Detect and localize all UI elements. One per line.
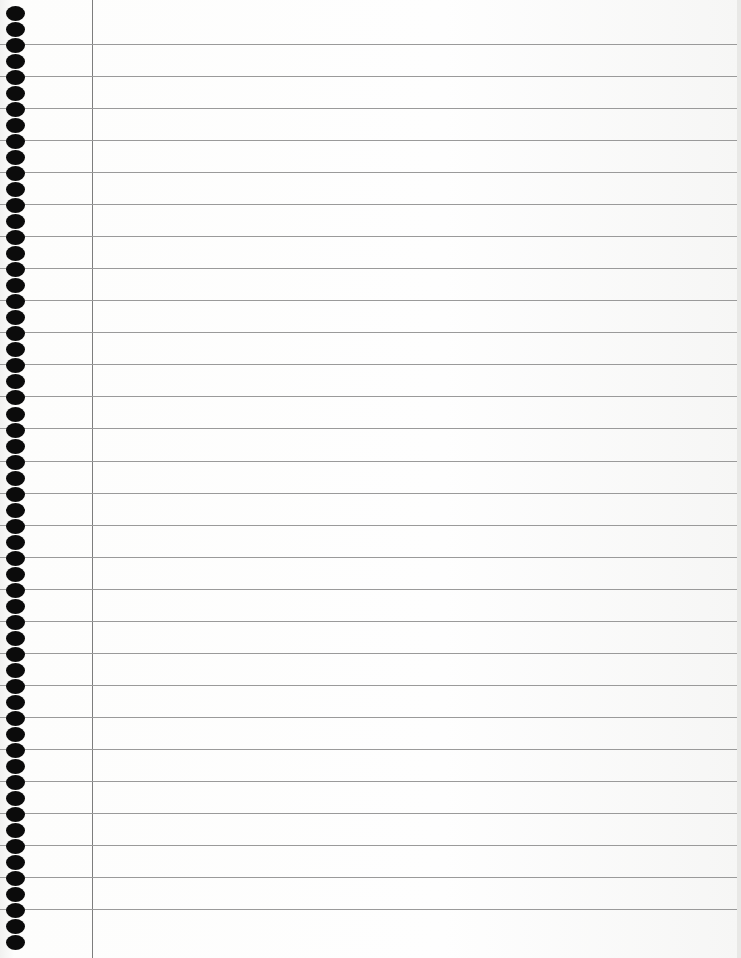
- ruled-line: [0, 589, 741, 590]
- binder-hole-icon: [6, 615, 25, 630]
- ruled-line: [0, 493, 741, 494]
- binder-hole-icon: [6, 390, 25, 405]
- ruled-line: [0, 268, 741, 269]
- binder-hole-icon: [6, 903, 25, 918]
- binder-hole-icon: [6, 807, 25, 822]
- ruled-line: [0, 172, 741, 173]
- binder-hole-icon: [6, 150, 25, 165]
- notebook-paper: [0, 0, 741, 958]
- binder-hole-icon: [6, 487, 25, 502]
- ruled-line: [0, 364, 741, 365]
- binder-hole-icon: [6, 535, 25, 550]
- ruled-line: [0, 877, 741, 878]
- ruled-line: [0, 781, 741, 782]
- binder-hole-icon: [6, 695, 25, 710]
- binder-hole-icon: [6, 246, 25, 261]
- ruled-line: [0, 461, 741, 462]
- binder-hole-icon: [6, 935, 25, 950]
- binder-hole-icon: [6, 70, 25, 85]
- binder-hole-icon: [6, 743, 25, 758]
- ruled-line: [0, 108, 741, 109]
- binder-hole-icon: [6, 679, 25, 694]
- binder-hole-icon: [6, 471, 25, 486]
- binder-hole-icon: [6, 503, 25, 518]
- binder-hole-icon: [6, 134, 25, 149]
- binder-hole-icon: [6, 711, 25, 726]
- ruled-line: [0, 557, 741, 558]
- ruled-line: [0, 236, 741, 237]
- binder-hole-icon: [6, 455, 25, 470]
- ruled-line: [0, 525, 741, 526]
- binder-hole-icon: [6, 839, 25, 854]
- binder-hole-icon: [6, 647, 25, 662]
- page-edge-shadow: [737, 0, 741, 958]
- ruled-line: [0, 685, 741, 686]
- binder-hole-icon: [6, 54, 25, 69]
- binder-hole-icon: [6, 663, 25, 678]
- binder-hole-icon: [6, 342, 25, 357]
- binder-hole-icon: [6, 551, 25, 566]
- ruled-line: [0, 813, 741, 814]
- binder-hole-icon: [6, 887, 25, 902]
- binder-hole-icon: [6, 214, 25, 229]
- ruled-line: [0, 300, 741, 301]
- ruled-line: [0, 332, 741, 333]
- ruled-line: [0, 621, 741, 622]
- binder-hole-icon: [6, 823, 25, 838]
- binder-hole-icon: [6, 759, 25, 774]
- binder-hole-icon: [6, 278, 25, 293]
- binder-hole-icon: [6, 230, 25, 245]
- binder-hole-icon: [6, 262, 25, 277]
- ruled-line: [0, 204, 741, 205]
- binder-hole-icon: [6, 118, 25, 133]
- margin-line: [92, 0, 93, 958]
- binder-hole-icon: [6, 166, 25, 181]
- ruled-line: [0, 909, 741, 910]
- binder-hole-icon: [6, 102, 25, 117]
- binder-hole-icon: [6, 86, 25, 101]
- binder-hole-icon: [6, 294, 25, 309]
- ruled-line: [0, 44, 741, 45]
- binder-hole-icon: [6, 326, 25, 341]
- ruled-line: [0, 76, 741, 77]
- binder-hole-icon: [6, 374, 25, 389]
- binder-hole-icon: [6, 599, 25, 614]
- binder-hole-icon: [6, 38, 25, 53]
- binder-hole-icon: [6, 6, 25, 21]
- binder-hole-icon: [6, 871, 25, 886]
- binder-hole-icon: [6, 407, 25, 422]
- ruled-line: [0, 428, 741, 429]
- binder-hole-icon: [6, 775, 25, 790]
- binder-hole-icon: [6, 423, 25, 438]
- ruled-line: [0, 653, 741, 654]
- binder-hole-icon: [6, 519, 25, 534]
- binder-hole-icon: [6, 22, 25, 37]
- ruled-line: [0, 845, 741, 846]
- ruled-line: [0, 717, 741, 718]
- binder-hole-icon: [6, 310, 25, 325]
- binder-hole-icon: [6, 855, 25, 870]
- ruled-line: [0, 140, 741, 141]
- binder-hole-icon: [6, 567, 25, 582]
- ruled-line: [0, 749, 741, 750]
- binder-hole-icon: [6, 583, 25, 598]
- binder-hole-icon: [6, 358, 25, 373]
- binder-hole-icon: [6, 631, 25, 646]
- binder-hole-icon: [6, 182, 25, 197]
- binder-hole-icon: [6, 919, 25, 934]
- binder-hole-icon: [6, 791, 25, 806]
- binder-hole-icon: [6, 727, 25, 742]
- binder-hole-icon: [6, 439, 25, 454]
- binder-hole-icon: [6, 198, 25, 213]
- ruled-line: [0, 396, 741, 397]
